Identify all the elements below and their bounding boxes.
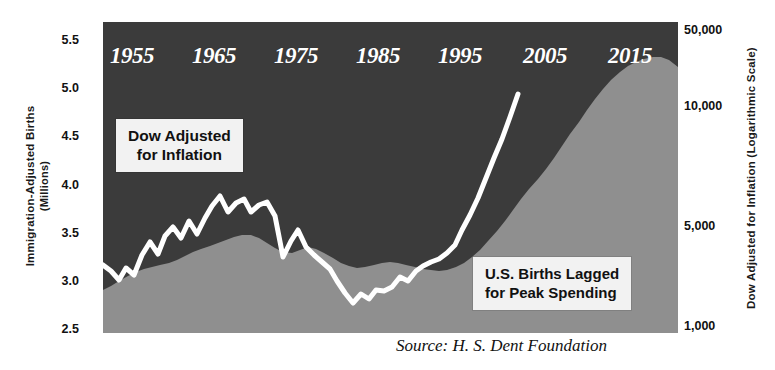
chart-container: Immigration-Adjusted Births (Millions) D… [0, 0, 775, 370]
source-caption: Source: H. S. Dent Foundation [396, 336, 607, 356]
callout-dow-line2: for Inflation [128, 145, 231, 164]
x-axis-tick-2015: 2015 [608, 43, 652, 69]
x-axis-tick-1985: 1985 [356, 43, 400, 69]
y-axis-right-tick-1000: 1,000 [684, 320, 744, 332]
callout-births-line1: U.S. Births Lagged [485, 264, 619, 283]
y-axis-left-tick-5-0: 5.0 [39, 82, 79, 94]
x-axis-tick-1975: 1975 [274, 43, 318, 69]
y-axis-right-tick-10000: 10,000 [684, 100, 744, 112]
y-axis-left-tick-4-0: 4.0 [39, 179, 79, 191]
callout-dow-line1: Dow Adjusted [128, 126, 231, 145]
y-axis-right-title: Dow Adjusted for Inflation (Logarithmic … [745, 28, 757, 328]
y-axis-left-tick-4-5: 4.5 [39, 130, 79, 142]
x-axis-tick-2005: 2005 [523, 43, 567, 69]
x-axis-tick-1965: 1965 [192, 43, 236, 69]
x-axis-tick-1955: 1955 [110, 43, 154, 69]
callout-us-births-lagged: U.S. Births Lagged for Peak Spending [473, 257, 631, 310]
y-axis-left-tick-5-5: 5.5 [39, 34, 79, 46]
callout-dow-adjusted-for-inflation: Dow Adjusted for Inflation [116, 119, 243, 172]
y-axis-left-tick-2-5: 2.5 [39, 323, 79, 335]
y-axis-left-title-line1: Immigration-Adjusted Births [23, 56, 37, 316]
y-axis-left-tick-3-5: 3.5 [39, 227, 79, 239]
y-axis-left-tick-3-0: 3.0 [39, 275, 79, 287]
x-axis-tick-1995: 1995 [438, 43, 482, 69]
y-axis-right-tick-5000: 5,000 [684, 220, 744, 232]
callout-births-line2: for Peak Spending [485, 283, 619, 302]
y-axis-right-tick-50000: 50,000 [684, 24, 744, 36]
